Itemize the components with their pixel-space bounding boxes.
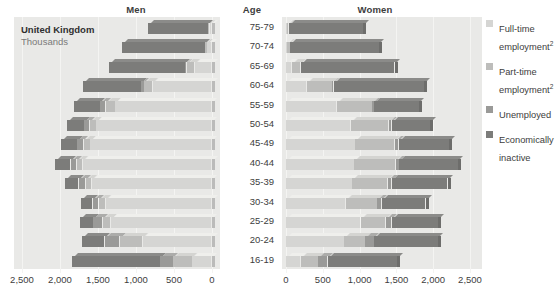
segment-part_time: [361, 217, 385, 228]
xtick-women-1500: 1,500: [379, 274, 413, 285]
bar-row: [0, 155, 560, 174]
segment-part_time: [292, 62, 300, 73]
segment-full_time: [286, 120, 350, 131]
legend-label: Full-time employment2: [499, 24, 553, 52]
chart-root: Men Age Women United Kingdom Thousands 7…: [0, 0, 560, 295]
xtick-women-500: 500: [306, 274, 340, 285]
bar-side-face: [438, 217, 441, 228]
bar-women-16-19: [286, 256, 397, 267]
segment-inactive: [289, 23, 363, 34]
legend-swatch-icon: [486, 63, 493, 70]
segment-full_time: [286, 236, 344, 247]
segment-unemployed: [388, 178, 392, 189]
bar-row: [0, 213, 560, 232]
segment-full_time: [286, 198, 345, 209]
bar-row: [0, 194, 560, 213]
age-label-20-24: 20-24: [228, 234, 274, 245]
segment-full_time: [286, 101, 336, 112]
men-column-title: Men: [96, 4, 176, 15]
legend-item-unemployed[interactable]: Unemployed: [486, 104, 560, 122]
age-label-45-49: 45-49: [228, 137, 274, 148]
segment-part_time: [351, 120, 389, 131]
legend-item-full_time[interactable]: Full-time employment2: [486, 18, 560, 54]
bar-side-face: [419, 101, 422, 112]
segment-full_time: [286, 217, 360, 228]
bar-side-face: [363, 23, 366, 34]
age-column-title: Age: [226, 4, 278, 15]
bar-women-55-59: [286, 101, 419, 112]
segment-full_time: [286, 256, 300, 267]
bar-women-50-54: [286, 120, 430, 131]
bar-women-60-64: [286, 81, 424, 92]
legend-label: Economically inactive: [499, 135, 554, 163]
segment-full_time: [286, 139, 355, 150]
caption-country: United Kingdom: [21, 24, 94, 36]
segment-inactive: [374, 101, 418, 112]
segment-unemployed: [365, 236, 373, 247]
segment-full_time: [286, 81, 306, 92]
bar-women-75-79: [286, 23, 363, 34]
bar-women-25-29: [286, 217, 438, 228]
segment-unemployed: [318, 256, 327, 267]
segment-inactive: [399, 139, 449, 150]
xtick-men-2000: 2,000: [43, 274, 77, 285]
xtick-women-2500: 2,500: [453, 274, 487, 285]
segment-inactive: [328, 256, 397, 267]
segment-part_time: [307, 81, 332, 92]
bar-side-face: [379, 42, 382, 53]
bar-side-face: [438, 236, 441, 247]
legend-swatch-icon: [486, 106, 493, 113]
segment-inactive: [392, 217, 438, 228]
age-label-16-19: 16-19: [228, 254, 274, 265]
bar-row: [0, 252, 560, 271]
segment-inactive: [382, 198, 426, 209]
xtick-women-2000: 2,000: [416, 274, 450, 285]
bar-women-65-69: [286, 62, 395, 73]
segment-full_time: [286, 159, 354, 170]
age-label-55-59: 55-59: [228, 99, 274, 110]
xtick-men-1000: 1,000: [119, 274, 153, 285]
segment-part_time: [346, 198, 377, 209]
legend-label: Part-time employment2: [499, 67, 553, 95]
segment-unemployed: [396, 159, 399, 170]
segment-inactive: [301, 62, 394, 73]
age-label-70-74: 70-74: [228, 40, 274, 51]
segment-part_time: [352, 178, 387, 189]
age-label-65-69: 65-69: [228, 60, 274, 71]
bar-row: [0, 58, 560, 77]
bar-women-45-49: [286, 139, 449, 150]
bar-row: [0, 174, 560, 193]
bar-row: [0, 97, 560, 116]
xtick-men-500: 500: [157, 274, 191, 285]
chart-caption: United Kingdom Thousands: [21, 24, 94, 48]
age-label-25-29: 25-29: [228, 215, 274, 226]
bar-women-35-39: [286, 178, 448, 189]
legend-swatch-icon: [486, 20, 493, 27]
segment-part_time: [355, 139, 394, 150]
bar-side-face: [449, 139, 452, 150]
age-label-35-39: 35-39: [228, 176, 274, 187]
legend-item-part_time[interactable]: Part-time employment2: [486, 61, 560, 97]
legend-item-inactive[interactable]: Economically inactive: [486, 129, 560, 165]
segment-unemployed: [386, 217, 391, 228]
bar-women-20-24: [286, 236, 438, 247]
segment-unemployed: [377, 198, 381, 209]
segment-inactive: [334, 81, 424, 92]
legend-label: Unemployed: [499, 110, 551, 120]
bar-side-face: [426, 198, 429, 209]
bar-women-40-44: [286, 159, 458, 170]
xtick-women-1000: 1,000: [343, 274, 377, 285]
segment-part_time: [344, 236, 365, 247]
legend-footnote-marker: 2: [550, 83, 554, 90]
legend: Full-time employment2Part-time employmen…: [486, 18, 560, 172]
age-label-50-54: 50-54: [228, 118, 274, 129]
bar-women-30-34: [286, 198, 426, 209]
xtick-men-1500: 1,500: [81, 274, 115, 285]
segment-unemployed: [395, 139, 398, 150]
xtick-men-2500: 2,500: [5, 274, 39, 285]
bar-side-face: [430, 120, 433, 131]
segment-inactive: [392, 120, 430, 131]
segment-part_time: [354, 159, 395, 170]
bar-side-face: [397, 256, 400, 267]
segment-full_time: [286, 62, 291, 73]
